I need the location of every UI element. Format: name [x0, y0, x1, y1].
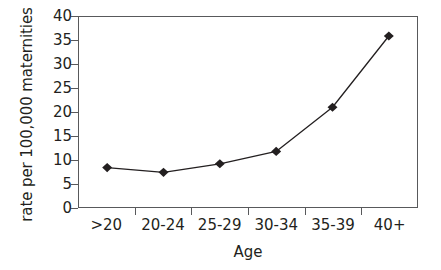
x-axis-tick-mark [248, 208, 249, 215]
y-axis-tick-mark [71, 184, 78, 185]
y-axis-tick-label: 20 [30, 105, 72, 120]
x-axis-tick-label: 40+ [374, 218, 406, 233]
y-axis-tick-label: 30 [30, 57, 72, 72]
x-axis-tick-mark [361, 208, 362, 215]
y-axis-tick-label: 10 [30, 153, 72, 168]
y-axis-tick-label: 0 [30, 201, 72, 216]
plot-area [78, 16, 418, 208]
x-axis-tick-label: 35-39 [311, 218, 355, 233]
data-point-marker [102, 163, 112, 172]
y-axis-tick-mark [71, 88, 78, 89]
x-axis-tick-mark [191, 208, 192, 215]
x-axis-tick-label: 30-34 [255, 218, 299, 233]
x-axis-title: Age [78, 243, 418, 261]
y-axis-tick-label: 35 [30, 33, 72, 48]
x-axis-tick-label: >20 [91, 218, 123, 233]
data-point-marker [215, 159, 225, 168]
line-chart: rate per 100,000 maternities 05101520253… [0, 0, 441, 270]
series-line [107, 36, 389, 172]
y-axis-tick-mark [71, 112, 78, 113]
data-series-svg [79, 17, 417, 207]
y-axis-tick-mark [71, 64, 78, 65]
y-axis-tick-label: 15 [30, 129, 72, 144]
y-axis-tick-labels: 0510152025303540 [30, 8, 72, 216]
y-axis-tick-mark [71, 160, 78, 161]
y-axis-tick-label: 40 [30, 9, 72, 24]
y-axis-tick-label: 5 [30, 177, 72, 192]
data-point-marker [159, 168, 169, 177]
y-axis-tick-mark [71, 208, 78, 209]
y-axis-tick-mark [71, 136, 78, 137]
x-axis-tick-label: 25-29 [198, 218, 242, 233]
y-axis-tick-label: 25 [30, 81, 72, 96]
x-axis-tick-mark [305, 208, 306, 215]
y-axis-tick-mark [71, 40, 78, 41]
x-axis-tick-mark [135, 208, 136, 215]
series-markers [102, 31, 394, 176]
x-axis-tick-label: 20-24 [141, 218, 185, 233]
data-point-marker [384, 31, 394, 40]
y-axis-tick-mark [71, 16, 78, 17]
